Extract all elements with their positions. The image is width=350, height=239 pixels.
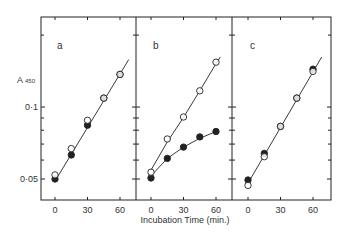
- panel-label: c: [250, 40, 255, 51]
- data-point-open: [52, 172, 58, 178]
- panel-b: b: [148, 40, 221, 181]
- panel-c: c: [245, 40, 322, 189]
- data-point-open: [84, 117, 90, 123]
- data-point-filled: [180, 144, 186, 150]
- data-point-open: [294, 95, 300, 101]
- x-tick-label: 60: [115, 205, 125, 215]
- fit-line: [151, 57, 220, 170]
- data-point-open: [117, 71, 123, 77]
- data-point-open: [101, 95, 107, 101]
- panel-a: a: [52, 40, 129, 182]
- x-tick-label: 60: [211, 205, 221, 215]
- plot-border: [41, 17, 331, 200]
- x-tick-label: 60: [308, 205, 318, 215]
- x-tick-label: 30: [82, 205, 92, 215]
- panel-label: a: [57, 40, 63, 51]
- data-point-open: [148, 169, 154, 175]
- data-point-open: [164, 136, 170, 142]
- x-axis-title: Incubation Time (min.): [140, 215, 229, 225]
- data-point-open: [197, 88, 203, 94]
- data-point-open: [245, 182, 251, 188]
- x-tick-label: 0: [52, 205, 57, 215]
- data-point-filled: [197, 134, 203, 140]
- y-axis-label: A450: [17, 75, 36, 85]
- chart-frame: [41, 17, 331, 200]
- data-point-filled: [164, 155, 170, 161]
- fit-line: [248, 57, 322, 183]
- data-point-filled: [213, 128, 219, 134]
- chart: abc 0·050·1 030600306003060 A450 Incubat…: [0, 0, 350, 239]
- data-point-open: [68, 145, 74, 151]
- chart-panels: abc: [52, 40, 322, 189]
- x-tick-label: 30: [275, 205, 285, 215]
- data-point-open: [310, 68, 316, 74]
- data-point-open: [277, 123, 283, 129]
- x-tick-label: 0: [245, 205, 250, 215]
- data-point-filled: [68, 152, 74, 158]
- panel-label: b: [153, 40, 159, 51]
- x-tick-label: 30: [178, 205, 188, 215]
- x-tick-label: 0: [148, 205, 153, 215]
- data-point-open: [213, 59, 219, 65]
- y-tick-label: 0·1: [25, 102, 38, 112]
- fit-line: [55, 60, 129, 182]
- data-point-open: [261, 154, 267, 160]
- data-point-open: [180, 114, 186, 120]
- y-tick-label: 0·05: [20, 174, 38, 184]
